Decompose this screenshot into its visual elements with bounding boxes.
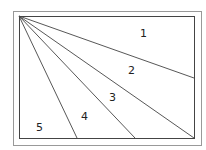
region-label-4: 4: [81, 110, 88, 123]
region-label-3: 3: [109, 91, 116, 104]
divider-line-1: [19, 16, 194, 78]
divider-line-4: [19, 16, 77, 138]
region-label-5: 5: [36, 121, 43, 134]
region-diagram: 1 2 3 4 5: [0, 0, 206, 150]
region-label-1: 1: [140, 27, 147, 40]
divider-line-2: [19, 16, 194, 138]
region-label-2: 2: [128, 64, 135, 77]
divider-line-3: [19, 16, 135, 138]
